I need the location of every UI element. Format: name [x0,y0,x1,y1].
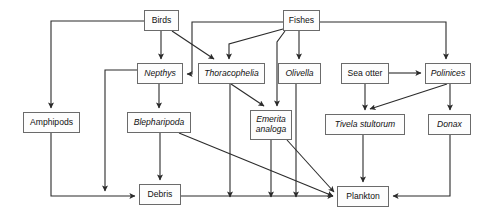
edge-birds-amphipods [51,21,144,108]
edge-emerita-plankton [287,140,334,192]
node-amphipods[interactable]: Amphipods [23,112,80,133]
node-plankton[interactable]: Plankton [337,186,389,207]
node-seaotter[interactable]: Sea otter [341,63,389,84]
node-donax[interactable]: Donax [428,114,471,135]
edge-thoracophelia-emerita [231,84,264,106]
node-debris[interactable]: Debris [139,184,181,205]
node-olivella[interactable]: Olivella [278,63,321,84]
edge-donax-plankton [393,135,450,196]
node-birds[interactable]: Birds [144,10,179,31]
food-web-diagram: BirdsFishesNepthysThoracopheliaOlivellaS… [0,0,491,221]
edge-birds-thoracophelia [172,31,214,59]
node-blepharipoda[interactable]: Blepharipoda [127,112,191,133]
edge-layer [0,0,491,221]
edge-blepharipoda-plankton [179,133,333,196]
edge-fishes-polinices [320,22,446,59]
edge-fishes-thoracophelia [229,29,283,59]
node-polinices[interactable]: Polinices [425,63,471,84]
node-tivela[interactable]: Tivela stultorum [325,114,405,135]
node-thoracophelia[interactable]: Thoracophelia [198,63,265,84]
node-nepthys[interactable]: Nepthys [137,63,183,84]
edge-polinices-tivela [370,84,447,109]
node-emerita[interactable]: Emerita analoga [250,110,292,140]
node-fishes[interactable]: Fishes [283,10,320,31]
edge-amphipods-debris [51,133,135,196]
